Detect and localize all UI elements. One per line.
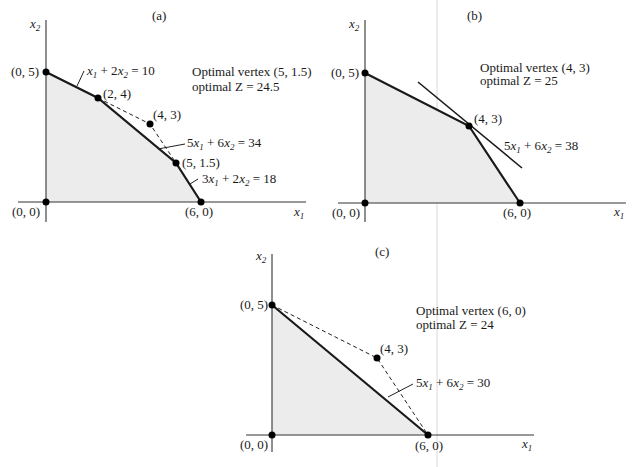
arrow-c3-a: [190, 179, 198, 184]
vertex-0-0-a: [43, 199, 50, 206]
panel-c: (c) x2 x1 (0, 5) (0, 0) (4, 3) (6, 0) 5x…: [240, 244, 534, 453]
vertex-5-1.5-a: [173, 160, 180, 167]
x1-axis-label-a: x1: [293, 204, 304, 221]
x2-axis-label-b: x2: [348, 16, 360, 33]
panel-c-title: (c): [375, 244, 389, 259]
panel-b-title: (b): [467, 8, 482, 23]
vertex-4-3-b: [466, 123, 473, 130]
x1-axis-label-c: x1: [521, 436, 532, 453]
label-0-5-b: (0, 5): [331, 65, 359, 80]
panel-a: (a) x2 x1 (0, 5) (0, 0) (2, 4) (4, 3) (5…: [11, 8, 312, 222]
label-0-5-a: (0, 5): [11, 64, 39, 79]
panel-b: (b) x2 x1 (0, 5) (0, 0) (4, 3) (6, 0) 5x…: [331, 8, 626, 222]
label-2-4-a: (2, 4): [103, 86, 131, 101]
label-0-0-b: (0, 0): [332, 205, 360, 220]
arrow-c1-c: [388, 384, 413, 397]
label-0-0-a: (0, 0): [12, 204, 40, 219]
x1-axis-label-b: x1: [613, 204, 624, 221]
vertex-0-5-b: [362, 70, 369, 77]
vertex-0-5-a: [43, 69, 50, 76]
label-6-0-b: (6, 0): [503, 205, 531, 220]
label-4-3-c: (4, 3): [380, 341, 408, 356]
constraint-2-a: 5x1 + 6x2 = 34: [187, 135, 262, 152]
optimal-z-b: optimal Z = 25: [480, 73, 558, 88]
x2-axis-label-c: x2: [255, 248, 267, 265]
constraint-1-b: 5x1 + 6x2 = 38: [504, 138, 578, 155]
label-0-5-c: (0, 5): [240, 297, 268, 312]
constraint-3-a: 3x1 + 2x2 = 18: [202, 171, 276, 188]
feasible-region-b: [365, 73, 520, 203]
lp-vertex-figure: (a) x2 x1 (0, 5) (0, 0) (2, 4) (4, 3) (5…: [0, 0, 641, 467]
label-0-0-c: (0, 0): [240, 437, 268, 452]
label-6-0-a: (6, 0): [185, 204, 213, 219]
arrow-c1-a: [77, 71, 84, 86]
optimal-vertex-a: Optimal vertex (5, 1.5): [192, 64, 312, 79]
x2-axis-label-a: x2: [29, 16, 41, 33]
optimal-vertex-c: Optimal vertex (6, 0): [416, 303, 526, 318]
label-5-1.5-a: (5, 1.5): [182, 155, 220, 170]
label-6-0-c: (6, 0): [415, 438, 443, 453]
label-4-3-a: (4, 3): [153, 107, 181, 122]
vertex-0-5-c: [269, 302, 276, 309]
vertex-0-0-b: [362, 200, 369, 207]
constraint-1-c: 5x1 + 6x2 = 30: [416, 375, 490, 392]
optimal-z-c: optimal Z = 24: [416, 317, 494, 332]
constraint-1-a: x1 + 2x2 = 10: [86, 63, 155, 80]
vertex-2-4-a: [95, 95, 102, 102]
arrow-c2-a: [158, 144, 185, 149]
optimal-z-a: optimal Z = 24.5: [192, 79, 280, 94]
panel-a-title: (a): [152, 8, 166, 23]
label-4-3-b: (4, 3): [474, 111, 502, 126]
vertex-0-0-c: [269, 432, 276, 439]
